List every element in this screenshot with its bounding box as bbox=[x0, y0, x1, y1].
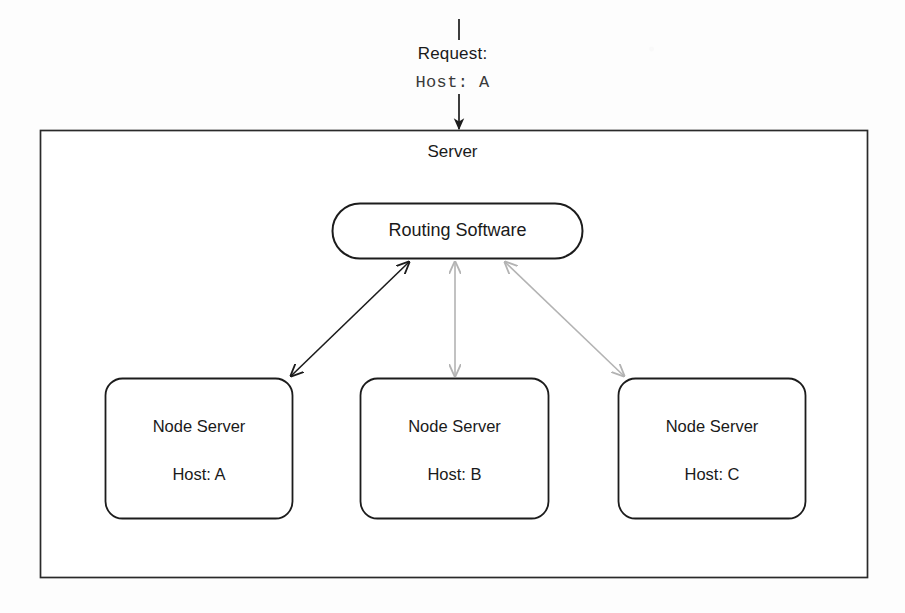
node-server-a-host: Host: A bbox=[105, 466, 293, 483]
node-server-a-shape bbox=[106, 379, 293, 519]
node-server-a-title: Node Server bbox=[105, 418, 293, 435]
routing-software-label: Routing Software bbox=[332, 221, 583, 239]
diagram-canvas: Request: Host: A Server Routing Software… bbox=[0, 0, 905, 613]
node-server-b-host: Host: B bbox=[360, 466, 549, 483]
request-host-header: Host: A bbox=[0, 74, 905, 91]
node-server-c-shape bbox=[619, 379, 806, 519]
node-server-c-host: Host: C bbox=[618, 466, 806, 483]
server-title: Server bbox=[0, 143, 905, 160]
node-server-b-title: Node Server bbox=[360, 418, 549, 435]
request-label: Request: bbox=[0, 45, 905, 62]
node-server-c-title: Node Server bbox=[618, 418, 806, 435]
node-server-b-shape bbox=[361, 379, 549, 519]
